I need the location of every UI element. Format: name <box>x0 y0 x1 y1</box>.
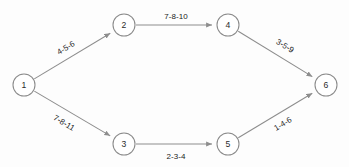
network-diagram-canvas: 123456 4-5-67-8-117-8-102-3-43-5-91-4-6 <box>0 0 349 167</box>
node-3[interactable]: 3 <box>113 133 135 155</box>
edge-label-5-to-6: 1-4-6 <box>272 115 293 133</box>
edge-label-1-to-3: 7-8-11 <box>52 113 77 133</box>
node-5[interactable]: 5 <box>217 133 239 155</box>
edge-label-1-to-2: 4-5-6 <box>55 39 76 57</box>
node-4[interactable]: 4 <box>217 14 239 36</box>
network-diagram-svg: 123456 4-5-67-8-117-8-102-3-43-5-91-4-6 <box>0 0 349 167</box>
edge-label-3-to-5: 2-3-4 <box>166 152 186 161</box>
edge-4-to-6 <box>238 31 312 76</box>
node-label-1: 1 <box>22 80 27 90</box>
nodes-layer: 123456 <box>13 14 337 155</box>
node-label-2: 2 <box>122 20 127 30</box>
node-label-3: 3 <box>122 139 127 149</box>
edge-label-2-to-4: 7-8-10 <box>164 12 188 21</box>
node-2[interactable]: 2 <box>113 14 135 36</box>
node-label-5: 5 <box>226 139 231 149</box>
edge-labels-layer: 4-5-67-8-117-8-102-3-43-5-91-4-6 <box>52 12 296 161</box>
node-label-6: 6 <box>324 80 329 90</box>
edge-label-4-to-6: 3-5-9 <box>274 37 295 55</box>
node-label-4: 4 <box>226 20 231 30</box>
edges-layer <box>34 25 312 144</box>
node-6[interactable]: 6 <box>315 74 337 96</box>
node-1[interactable]: 1 <box>13 74 35 96</box>
